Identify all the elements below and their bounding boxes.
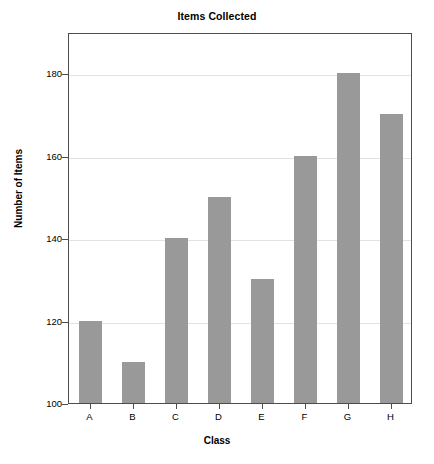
- x-axis-title: Class: [0, 435, 434, 446]
- bar-c[interactable]: [165, 238, 188, 403]
- bar-f[interactable]: [294, 156, 317, 403]
- plot-area: [68, 33, 412, 404]
- x-axis-tick-label-a: A: [70, 411, 110, 422]
- x-axis-tick-label-g: G: [328, 411, 368, 422]
- bar-e[interactable]: [251, 279, 274, 403]
- bar-g[interactable]: [337, 73, 360, 403]
- x-axis-tick-labels: ABCDEFGH: [68, 411, 412, 425]
- y-axis-tick-marks: [0, 33, 68, 404]
- x-axis-tick-mark: [262, 404, 263, 409]
- chart-title: Items Collected: [0, 10, 434, 22]
- bar-d[interactable]: [208, 197, 231, 403]
- bar-chart-figure: Items Collected Number of Items 10012014…: [0, 0, 434, 464]
- x-axis-tick-label-e: E: [242, 411, 282, 422]
- x-axis-tick-mark: [90, 404, 91, 409]
- x-axis-tick-label-f: F: [285, 411, 325, 422]
- x-axis-tick-marks: [68, 404, 412, 410]
- bars-group: [69, 34, 411, 403]
- x-axis-tick-mark: [391, 404, 392, 409]
- x-axis-tick-label-h: H: [371, 411, 411, 422]
- x-axis-tick-mark: [176, 404, 177, 409]
- bar-a[interactable]: [79, 321, 102, 403]
- x-axis-tick-label-c: C: [156, 411, 196, 422]
- bar-h[interactable]: [380, 114, 403, 403]
- x-axis-tick-mark: [305, 404, 306, 409]
- bar-b[interactable]: [122, 362, 145, 403]
- x-axis-tick-mark: [133, 404, 134, 409]
- x-axis-tick-label-d: D: [199, 411, 239, 422]
- x-axis-tick-mark: [219, 404, 220, 409]
- x-axis-tick-mark: [348, 404, 349, 409]
- x-axis-tick-label-b: B: [113, 411, 153, 422]
